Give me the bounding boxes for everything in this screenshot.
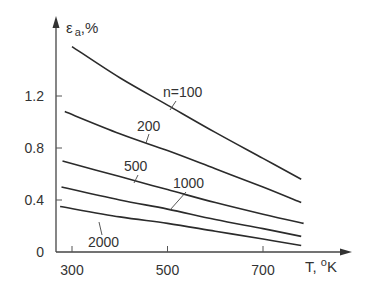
curve-n-100 (72, 47, 301, 180)
x-tick-label: 700 (251, 262, 275, 278)
y-axis-arrow-icon (53, 16, 60, 28)
leader-line (170, 192, 186, 210)
y-tick-label: 0.8 (25, 140, 45, 156)
y-axis-title: εa,% (66, 19, 98, 38)
x-axis-arrow-icon (340, 249, 352, 256)
curve-label: 500 (124, 158, 148, 174)
curve-label: 2000 (88, 234, 119, 250)
x-tick-label: 500 (156, 262, 180, 278)
curve-label: 1000 (173, 175, 204, 191)
leader-line (146, 134, 149, 143)
x-ticks: 300500700 (60, 246, 275, 278)
x-axis-title: T, oK (305, 256, 337, 275)
y-tick-label: 1.2 (25, 88, 45, 104)
curve-label: 200 (137, 118, 161, 134)
line-chart: 00.40.81.2 300500700 n=10020050010002000… (0, 0, 370, 293)
curves: n=10020050010002000 (60, 47, 304, 250)
y-tick-label: 0.4 (25, 192, 45, 208)
axes (56, 24, 342, 252)
x-tick-label: 300 (60, 262, 84, 278)
curve-label: n=100 (163, 84, 203, 100)
y-tick-label: 0 (36, 244, 44, 260)
curve-n-1000 (62, 187, 302, 236)
